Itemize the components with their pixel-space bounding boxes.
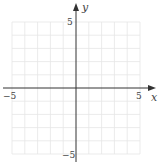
x-tick-label-max: 5 — [136, 91, 142, 101]
y-tick-label-min: −5 — [62, 150, 76, 160]
x-axis — [3, 85, 156, 91]
y-axis — [73, 3, 79, 162]
x-axis-label: x — [151, 91, 158, 104]
y-tick-label-max: 5 — [67, 17, 73, 27]
x-tick-label-min: −5 — [3, 91, 17, 101]
coordinate-plane: x y −5 5 5 −5 — [0, 0, 163, 164]
y-axis-arrow-icon — [73, 3, 79, 11]
y-axis-label: y — [81, 1, 89, 14]
